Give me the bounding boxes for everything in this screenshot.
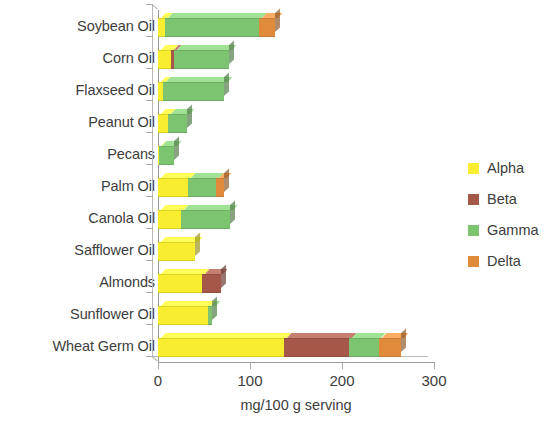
bar-segment-delta bbox=[259, 18, 275, 37]
y-axis-label: Almonds bbox=[99, 275, 155, 289]
y-axis-label: Canola Oil bbox=[88, 211, 155, 225]
x-axis-tick bbox=[434, 362, 435, 369]
y-axis-tick bbox=[146, 132, 153, 133]
legend-swatch-icon bbox=[468, 163, 479, 174]
legend-swatch-icon bbox=[468, 225, 479, 236]
y-axis-label: Peanut Oil bbox=[88, 115, 155, 129]
x-axis-tick-label: 0 bbox=[128, 372, 188, 389]
bar-segment-gamma bbox=[174, 50, 229, 69]
x-axis-tick-label: 300 bbox=[404, 372, 464, 389]
bar-segment-alpha bbox=[158, 210, 181, 229]
legend-swatch-icon bbox=[468, 194, 479, 205]
bar-segment-gamma bbox=[159, 146, 174, 165]
y-axis-label: Sunflower Oil bbox=[70, 307, 155, 321]
bar-segment-gamma bbox=[349, 338, 378, 357]
y-axis-tick bbox=[146, 68, 153, 69]
bar-segment-beta bbox=[202, 274, 220, 293]
bar-row bbox=[158, 274, 434, 293]
bar-segment-gamma bbox=[208, 306, 213, 325]
y-axis-label: Wheat Germ Oil bbox=[52, 339, 155, 353]
bar-segment-gamma bbox=[168, 114, 187, 133]
bar-row bbox=[158, 210, 434, 229]
bar-segment-delta bbox=[216, 178, 224, 197]
y-axis-label: Pecans bbox=[107, 147, 155, 161]
legend-swatch-icon bbox=[468, 256, 479, 267]
bar-segment-alpha bbox=[158, 178, 188, 197]
bar-row bbox=[158, 18, 434, 37]
y-axis-label: Safflower Oil bbox=[74, 243, 155, 257]
y-axis-tick bbox=[146, 4, 153, 5]
x-axis-tick bbox=[158, 362, 159, 369]
bar-segment-alpha bbox=[158, 306, 208, 325]
plot-area: 0100200300 mg/100 g serving bbox=[158, 10, 434, 362]
bar-segment-delta bbox=[379, 338, 401, 357]
x-axis-line bbox=[158, 362, 434, 363]
y-axis-label: Palm Oil bbox=[101, 179, 155, 193]
y-axis-back-line bbox=[152, 4, 153, 356]
y-axis-tick bbox=[146, 260, 153, 261]
bar-segment-alpha bbox=[158, 50, 171, 69]
bar-segment-beta bbox=[284, 338, 349, 357]
bar-segment-gamma bbox=[163, 82, 225, 101]
y-axis-label: Corn Oil bbox=[103, 51, 155, 65]
x-axis-tick bbox=[250, 362, 251, 369]
bar-row bbox=[158, 82, 434, 101]
bar-row bbox=[158, 338, 434, 357]
bar-row bbox=[158, 306, 434, 325]
y-axis-tick bbox=[146, 164, 153, 165]
legend-label: Gamma bbox=[487, 222, 539, 238]
y-axis-tick bbox=[146, 196, 153, 197]
bar-row bbox=[158, 50, 434, 69]
x-axis-tick bbox=[342, 362, 343, 369]
y-axis-label: Flaxseed Oil bbox=[76, 83, 155, 97]
bar-segment-gamma bbox=[165, 18, 259, 37]
bar-row bbox=[158, 146, 434, 165]
bar-segment-alpha bbox=[158, 274, 202, 293]
legend-label: Alpha bbox=[487, 160, 524, 176]
bar-segment-gamma bbox=[188, 178, 216, 197]
legend-label: Delta bbox=[487, 253, 521, 269]
x-axis-title: mg/100 g serving bbox=[158, 397, 434, 413]
y-axis-tick bbox=[146, 292, 153, 293]
bar-segment-alpha bbox=[158, 338, 284, 357]
x-axis-tick-label: 200 bbox=[312, 372, 372, 389]
y-axis-tick bbox=[146, 324, 153, 325]
y-axis-tick bbox=[146, 100, 153, 101]
bar-row bbox=[158, 242, 434, 261]
bar-chart: Soybean OilCorn OilFlaxseed OilPeanut Oi… bbox=[0, 0, 555, 427]
x-axis-tick-label: 100 bbox=[220, 372, 280, 389]
y-axis-tick bbox=[146, 356, 153, 357]
y-axis-label: Soybean Oil bbox=[77, 19, 155, 33]
bar-segment-gamma bbox=[181, 210, 230, 229]
y-axis-tick bbox=[146, 36, 153, 37]
bar-segment-alpha bbox=[158, 114, 168, 133]
legend-label: Beta bbox=[487, 191, 517, 207]
y-axis-tick bbox=[146, 228, 153, 229]
bar-row bbox=[158, 114, 434, 133]
bar-row bbox=[158, 178, 434, 197]
bar-segment-alpha bbox=[158, 18, 165, 37]
bar-segment-alpha bbox=[158, 242, 195, 261]
